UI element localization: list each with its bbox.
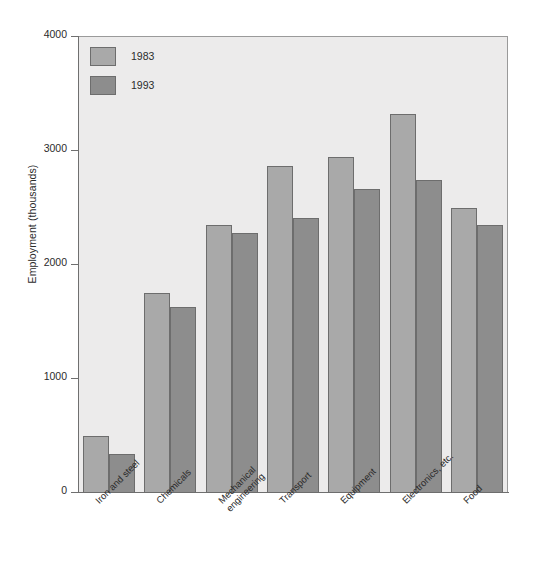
y-axis-title: Employment (thousands) bbox=[26, 114, 38, 334]
y-axis-tick: 4000 bbox=[0, 36, 78, 37]
bar-1993-transport bbox=[293, 218, 319, 493]
y-axis-tick: 2000 bbox=[0, 264, 78, 265]
y-axis-tick-mark bbox=[71, 492, 78, 493]
legend-label: 1993 bbox=[131, 79, 154, 91]
bar-1983-mechanical-engineering bbox=[206, 225, 232, 493]
y-axis-tick-label: 0 bbox=[61, 484, 67, 496]
legend-label: 1983 bbox=[131, 50, 154, 62]
y-axis-tick-label: 1000 bbox=[44, 370, 67, 382]
y-axis-tick-mark bbox=[71, 36, 78, 37]
bar-1993-mechanical-engineering bbox=[232, 233, 258, 493]
bar-1993-electronics-etc bbox=[416, 180, 442, 493]
y-axis-tick-label: 4000 bbox=[44, 28, 67, 40]
y-axis-tick-mark bbox=[71, 264, 78, 265]
bar-1983-food bbox=[451, 208, 477, 493]
bar-1993-chemicals bbox=[170, 307, 196, 493]
bar-1993-equipment bbox=[354, 189, 380, 493]
bar-1993-food bbox=[477, 225, 503, 493]
y-axis-tick-mark bbox=[71, 150, 78, 151]
dark-gray-swatch bbox=[90, 76, 116, 95]
bar-1983-electronics-etc bbox=[390, 114, 416, 493]
bar-1983-transport bbox=[267, 166, 293, 493]
y-axis-tick: 0 bbox=[0, 492, 78, 493]
y-axis-tick-label: 2000 bbox=[44, 256, 67, 268]
bar-chart: Employment (thousands) 01000200030004000… bbox=[0, 0, 533, 578]
y-axis-tick-label: 3000 bbox=[44, 142, 67, 154]
light-gray-swatch bbox=[90, 47, 116, 66]
y-axis-tick: 1000 bbox=[0, 378, 78, 379]
bar-1983-chemicals bbox=[144, 293, 170, 494]
y-axis-tick-mark bbox=[71, 378, 78, 379]
y-axis-tick: 3000 bbox=[0, 150, 78, 151]
y-axis-line bbox=[78, 36, 79, 493]
bar-1983-equipment bbox=[328, 157, 354, 493]
